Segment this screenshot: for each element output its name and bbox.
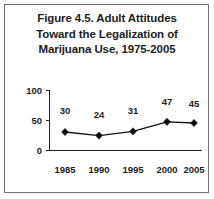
- x-tick-label-2005: 2005: [183, 164, 205, 175]
- data-point-label-2000: 47: [162, 96, 173, 107]
- y-tick-label-0: 0: [37, 145, 42, 156]
- data-point-label-1995: 31: [128, 105, 139, 116]
- data-point-marker: [62, 128, 69, 135]
- x-tick-label-1985: 1985: [54, 164, 76, 175]
- data-point-marker: [164, 118, 171, 125]
- data-series-line: [65, 122, 194, 136]
- line-chart-svg: 100 50 0 30 24 31 47 45 1985 1990 1995 2…: [0, 0, 214, 199]
- x-tick-label-2000: 2000: [156, 164, 177, 175]
- x-tick-label-1990: 1990: [88, 164, 109, 175]
- y-tick-label-50: 50: [31, 115, 42, 126]
- data-point-label-1985: 30: [60, 105, 71, 116]
- plot-area: 100 50 0 30 24 31 47 45 1985 1990 1995 2…: [0, 0, 214, 199]
- data-point-marker: [96, 132, 103, 139]
- y-tick-label-100: 100: [26, 85, 42, 96]
- data-point-marker: [130, 128, 137, 135]
- data-point-label-1990: 24: [94, 109, 105, 120]
- figure-container: Figure 4.5. Adult Attitudes Toward the L…: [0, 0, 214, 199]
- data-point-marker: [191, 119, 198, 126]
- x-tick-label-1995: 1995: [122, 164, 144, 175]
- data-point-label-2005: 45: [189, 98, 200, 109]
